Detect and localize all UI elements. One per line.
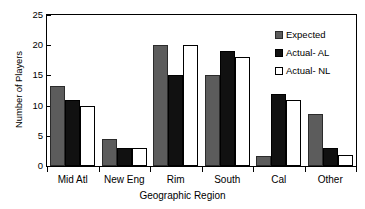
y-tick-label-2: 10 bbox=[25, 101, 43, 111]
bar bbox=[338, 155, 353, 166]
legend-item: Expected bbox=[275, 29, 330, 40]
legend: ExpectedActual- ALActual- NL bbox=[275, 29, 330, 76]
bar-chart: Number of Players 0510152025 Mid AtlNew … bbox=[0, 0, 365, 209]
x-axis-title: Geographic Region bbox=[0, 190, 365, 201]
y-tick-label-4: 20 bbox=[25, 40, 43, 50]
x-tick-mark-5 bbox=[305, 167, 306, 172]
bar bbox=[235, 57, 250, 166]
bar bbox=[168, 75, 183, 166]
bar bbox=[80, 106, 95, 166]
bar-group bbox=[47, 15, 99, 166]
legend-label: Actual- NL bbox=[286, 66, 330, 76]
x-tick-mark-4 bbox=[253, 167, 254, 172]
bar bbox=[271, 94, 286, 166]
bar-group bbox=[150, 15, 202, 166]
y-tick-label-1: 5 bbox=[25, 131, 43, 141]
legend-swatch-icon bbox=[275, 31, 283, 39]
legend-item: Actual- NL bbox=[275, 65, 330, 76]
bar-group bbox=[99, 15, 151, 166]
bar bbox=[65, 100, 80, 166]
bar bbox=[117, 148, 132, 166]
legend-swatch-icon bbox=[275, 67, 283, 75]
legend-item: Actual- AL bbox=[275, 47, 330, 58]
x-tick-mark-2 bbox=[150, 167, 151, 172]
x-tick-label-5: Other bbox=[295, 174, 365, 185]
bar bbox=[323, 148, 338, 166]
bar bbox=[102, 139, 117, 166]
bar bbox=[308, 114, 323, 166]
legend-swatch-icon bbox=[275, 49, 283, 57]
legend-label: Actual- AL bbox=[286, 48, 329, 58]
bar bbox=[205, 75, 220, 166]
bar bbox=[286, 100, 301, 166]
bar bbox=[132, 148, 147, 166]
bar bbox=[183, 45, 198, 166]
bar bbox=[220, 51, 235, 166]
legend-label: Expected bbox=[286, 30, 326, 40]
bar bbox=[50, 86, 65, 166]
x-tick-mark-3 bbox=[202, 167, 203, 172]
y-tick-label-3: 15 bbox=[25, 71, 43, 81]
bar-group bbox=[202, 15, 254, 166]
bar bbox=[153, 45, 168, 166]
bar bbox=[256, 156, 271, 166]
y-axis-title: Number of Players bbox=[13, 20, 24, 160]
x-tick-mark-6 bbox=[356, 167, 357, 172]
y-tick-label-0: 0 bbox=[25, 161, 43, 171]
x-tick-mark-1 bbox=[99, 167, 100, 172]
y-tick-label-5: 25 bbox=[25, 10, 43, 20]
x-tick-mark-0 bbox=[47, 167, 48, 172]
